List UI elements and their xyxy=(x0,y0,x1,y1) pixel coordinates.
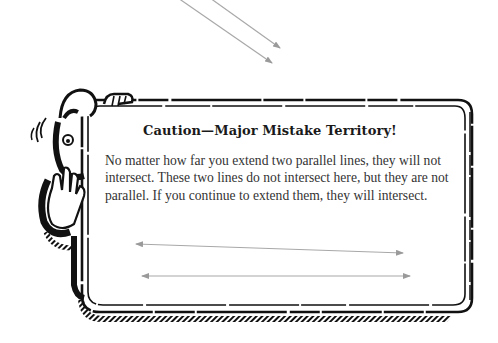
non-parallel-line-1 xyxy=(136,244,403,253)
non-parallel-lines-figure xyxy=(0,0,498,343)
caution-callout-page: Caution—Major Mistake Territory! No matt… xyxy=(0,0,498,343)
